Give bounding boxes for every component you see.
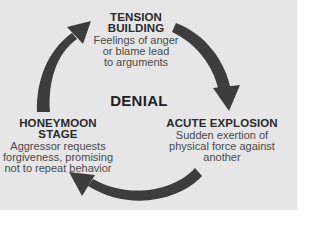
stage-tension-building: TENSION BUILDING Feelings of anger or bl… bbox=[86, 12, 186, 67]
stage-title: ACUTE EXPLOSION bbox=[166, 118, 278, 129]
description-line: physical force against bbox=[166, 141, 278, 152]
stage-description: Feelings of anger or blame lead to argum… bbox=[86, 35, 186, 67]
description-line: or blame lead bbox=[86, 46, 186, 57]
description-line: forgiveness, promising bbox=[2, 152, 114, 163]
stage-acute-explosion: ACUTE EXPLOSION Sudden exertion of physi… bbox=[166, 118, 278, 162]
stage-description: Sudden exertion of physical force agains… bbox=[166, 130, 278, 162]
center-label: DENIAL bbox=[108, 92, 170, 109]
description-line: not to repeat behavior bbox=[2, 163, 114, 174]
description-line: to arguments bbox=[86, 57, 186, 68]
description-line: another bbox=[166, 152, 278, 163]
stage-title: HONEYMOON STAGE bbox=[2, 118, 114, 140]
arrow-honeymoon-to-tension-icon bbox=[37, 21, 91, 112]
stage-honeymoon: HONEYMOON STAGE Aggressor requests forgi… bbox=[2, 118, 114, 173]
stage-title: BUILDING bbox=[86, 23, 186, 34]
stage-description: Aggressor requests forgiveness, promisin… bbox=[2, 141, 114, 173]
